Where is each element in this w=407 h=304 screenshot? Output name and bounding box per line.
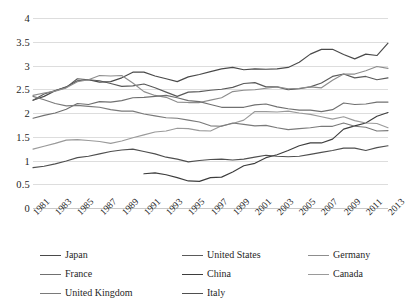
series-line (33, 146, 388, 168)
legend-swatch-icon (308, 274, 329, 275)
legend-item-canada[interactable]: Canada (308, 269, 363, 279)
y-axis: 00.511.522.533.54 (0, 0, 30, 215)
legend-label: United States (207, 250, 261, 260)
legend-label: France (65, 269, 92, 279)
chart-legend: JapanUnited StatesGermanyFranceChinaCana… (0, 248, 394, 304)
legend-swatch-icon (182, 255, 203, 256)
legend-item-germany[interactable]: Germany (308, 250, 370, 260)
legend-swatch-icon (182, 274, 203, 275)
legend-label: Japan (65, 250, 88, 260)
legend-swatch-icon (182, 293, 203, 294)
y-axis-tick-label: 1 (25, 155, 30, 166)
legend-swatch-icon (40, 293, 61, 294)
y-axis-tick-label: 2.5 (16, 84, 30, 95)
legend-swatch-icon (308, 255, 329, 256)
plot-wrapper: 00.511.522.533.54 (0, 0, 394, 215)
series-line (33, 111, 388, 149)
series-line (33, 96, 388, 131)
plot-area (33, 18, 388, 208)
legend-label: Germany (333, 250, 370, 260)
legend-item-france[interactable]: France (40, 269, 92, 279)
y-axis-tick-label: 0 (25, 203, 30, 214)
legend-swatch-icon (40, 274, 61, 275)
legend-label: Italy (207, 288, 225, 298)
legend-item-japan[interactable]: Japan (40, 250, 88, 260)
legend-item-italy[interactable]: Italy (182, 288, 225, 298)
legend-item-china[interactable]: China (182, 269, 231, 279)
series-line (33, 43, 388, 100)
legend-label: China (207, 269, 231, 279)
series-line (33, 95, 388, 118)
y-axis-tick-label: 3.5 (16, 36, 30, 47)
legend-item-united-kingdom[interactable]: United Kingdom (40, 288, 133, 298)
legend-swatch-icon (40, 255, 61, 256)
y-axis-tick-label: 0.5 (16, 179, 30, 190)
x-axis: 1981198319851987198919911993199519971999… (33, 210, 388, 248)
y-axis-tick-label: 2 (25, 108, 30, 119)
series-lines (33, 18, 388, 208)
y-axis-tick-label: 1.5 (16, 131, 30, 142)
series-line (144, 113, 388, 182)
y-axis-tick-label: 3 (25, 60, 30, 71)
legend-item-united-states[interactable]: United States (182, 250, 261, 260)
series-line (33, 74, 388, 100)
legend-label: United Kingdom (65, 288, 133, 298)
y-axis-tick-label: 4 (25, 13, 30, 24)
legend-label: Canada (333, 269, 363, 279)
